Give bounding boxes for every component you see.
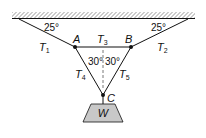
node-c-dot: [101, 93, 105, 97]
weight-label: W: [98, 107, 110, 119]
label-t5: T5: [119, 68, 130, 81]
node-c-label: C: [107, 92, 115, 104]
angle-right-ceiling: 25°: [151, 22, 166, 33]
angle-left-ceiling: 25°: [44, 22, 59, 33]
label-t4: T4: [75, 68, 86, 81]
ceiling: [12, 12, 195, 19]
label-t1: T1: [39, 41, 50, 54]
node-b-dot: [129, 45, 133, 49]
angle-left-vertical: 30°: [88, 56, 103, 67]
node-b-label: B: [125, 33, 132, 45]
tension-diagram: W A B C T1 T2 T3 T4 T5 25° 25° 30° 30°: [0, 0, 206, 138]
label-t3: T3: [97, 33, 108, 46]
node-a-dot: [73, 45, 77, 49]
ceiling-hatch: [12, 12, 195, 18]
rope-t5: [103, 47, 131, 95]
label-t2: T2: [157, 41, 168, 54]
angle-right-vertical: 30°: [105, 56, 120, 67]
node-a-label: A: [72, 33, 80, 45]
